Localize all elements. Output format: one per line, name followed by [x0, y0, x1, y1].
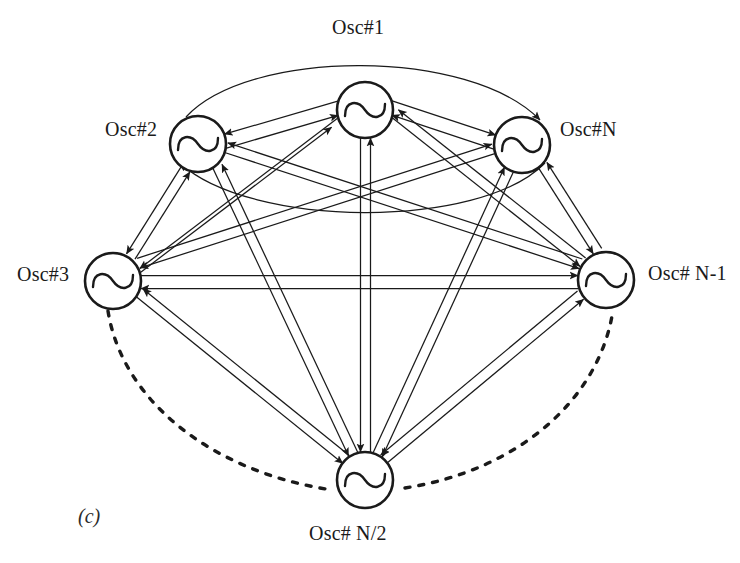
node-osc3[interactable] — [85, 253, 141, 309]
node-label-oscN2: Osc# N/2 — [309, 522, 387, 545]
node-oscN2[interactable] — [337, 452, 393, 508]
node-osc2[interactable] — [170, 116, 226, 172]
node-oscN1[interactable] — [578, 252, 634, 308]
node-layer — [85, 82, 634, 508]
node-label-oscN: Osc#N — [560, 118, 617, 141]
edge-oscN1-oscN2 — [381, 291, 584, 463]
oscillator-network-figure: Osc#1 Osc#2 Osc#N Osc#3 Osc# N-1 Osc# N/… — [0, 0, 740, 563]
edge-osc1-osc2 — [224, 101, 339, 149]
node-label-oscN1: Osc# N-1 — [648, 262, 727, 285]
node-label-osc2: Osc#2 — [105, 118, 157, 141]
node-label-osc1: Osc#1 — [332, 16, 384, 39]
node-osc1[interactable] — [337, 82, 393, 138]
network-diagram-canvas — [0, 0, 740, 563]
edge-oscN-oscN2 — [373, 167, 513, 457]
edge-osc3-oscN2 — [137, 289, 350, 464]
edge-osc2-oscN-arc-lower — [180, 163, 545, 213]
edge-osc3-oscN1 — [141, 276, 578, 289]
edge-oscN-oscN1 — [539, 162, 602, 254]
edge-osc1-oscN — [391, 101, 496, 150]
edge-osc1-osc3 — [134, 119, 337, 278]
dashed-arc-oscN2-oscN1 — [405, 310, 613, 488]
edge-osc2-osc3 — [127, 166, 190, 259]
node-oscN[interactable] — [494, 117, 550, 173]
edge-osc2-oscN2 — [213, 164, 358, 456]
figure-caption-letter: (c) — [78, 505, 100, 528]
node-label-osc3: Osc#3 — [17, 263, 69, 286]
